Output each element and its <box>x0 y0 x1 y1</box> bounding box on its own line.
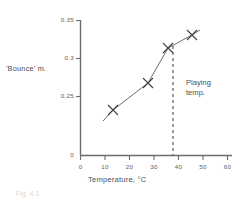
data-point-marker <box>163 43 173 53</box>
x-axis-title: Temperature, °C <box>88 175 146 184</box>
y-tick-label-0.30: 0.3 <box>48 54 74 61</box>
x-tick-label-20: 20 <box>120 163 140 170</box>
y-tick-label-0.35: 0.35 <box>48 16 74 23</box>
x-tick-label-10: 10 <box>95 163 115 170</box>
y-tick-label-0: 0 <box>48 151 74 158</box>
x-tick-label-0: 0 <box>71 163 91 170</box>
x-tick-label-60: 60 <box>218 163 238 170</box>
x-tick-label-30: 30 <box>144 163 164 170</box>
playing-temp-annotation: Playing temp. <box>186 78 211 98</box>
figure-caption: Fig. 4.1 <box>16 190 39 197</box>
data-point-marker <box>108 105 118 115</box>
data-point-marker <box>187 30 197 40</box>
x-tick-label-40: 40 <box>169 163 189 170</box>
data-point-marker <box>143 78 153 88</box>
y-axis-title: 'Bounce' m. <box>6 64 46 73</box>
playing-temp-line2: temp. <box>186 88 211 98</box>
playing-temp-line1: Playing <box>186 78 211 88</box>
x-tick-label-50: 50 <box>193 163 213 170</box>
y-tick-label-0.25: 0.25 <box>48 92 74 99</box>
bounce-vs-temperature-chart: 0.35 0.3 0.25 0 0 10 20 30 40 50 60 'Bou… <box>0 0 242 203</box>
data-trend-line <box>103 30 200 121</box>
plot-canvas <box>0 0 242 203</box>
